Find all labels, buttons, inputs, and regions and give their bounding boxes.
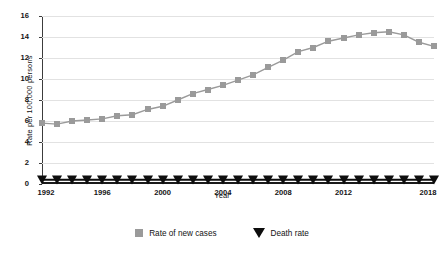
data-point-triangle: [354, 175, 364, 184]
data-point-triangle: [384, 175, 394, 184]
data-point-triangle: [127, 175, 137, 184]
data-point-square: [160, 103, 166, 109]
y-axis-tick-label: 12: [3, 54, 29, 62]
data-point-square: [69, 118, 75, 124]
y-axis-tick-label: 8: [3, 96, 29, 104]
data-point-triangle: [429, 175, 439, 184]
data-point-square: [114, 113, 120, 119]
data-point-triangle: [67, 175, 77, 184]
data-point-square: [386, 29, 392, 35]
data-point-triangle: [173, 175, 183, 184]
data-point-triangle: [263, 175, 273, 184]
data-point-square: [341, 35, 347, 41]
data-point-square: [145, 106, 151, 112]
data-point-square: [416, 39, 422, 45]
y-axis-tick-label: 6: [3, 117, 29, 125]
data-point-square: [205, 87, 211, 93]
data-point-triangle: [82, 175, 92, 184]
y-axis-tick-label: 4: [3, 138, 29, 146]
y-axis-tick-label: 14: [3, 33, 29, 41]
data-point-square: [250, 72, 256, 78]
data-point-triangle: [369, 175, 379, 184]
data-point-triangle: [143, 175, 153, 184]
data-point-square: [39, 120, 45, 126]
square-marker-icon: [135, 229, 143, 237]
data-point-triangle: [323, 175, 333, 184]
data-point-square: [220, 82, 226, 88]
data-point-square: [325, 38, 331, 44]
data-point-triangle: [233, 175, 243, 184]
y-axis-tick-label: 16: [3, 12, 29, 20]
data-point-triangle: [97, 175, 107, 184]
data-point-triangle: [308, 175, 318, 184]
triangle-marker-icon: [253, 228, 265, 238]
y-axis-tick-label: 10: [3, 75, 29, 83]
y-axis-tick-label: 2: [3, 159, 29, 167]
data-point-triangle: [248, 175, 258, 184]
data-point-triangle: [414, 175, 424, 184]
data-point-square: [175, 97, 181, 103]
legend-item-rate-of-new-cases: Rate of new cases: [135, 229, 216, 238]
data-point-square: [84, 117, 90, 123]
data-point-square: [99, 116, 105, 122]
data-point-square: [235, 77, 241, 83]
chart-legend: Rate of new cases Death rate: [0, 228, 444, 238]
x-axis-title: Year: [0, 191, 444, 200]
data-point-square: [265, 64, 271, 70]
data-point-triangle: [278, 175, 288, 184]
data-point-triangle: [158, 175, 168, 184]
data-point-triangle: [293, 175, 303, 184]
data-point-triangle: [399, 175, 409, 184]
data-point-square: [401, 32, 407, 38]
data-point-square: [295, 49, 301, 55]
series-lines: [42, 16, 434, 184]
data-point-square: [371, 30, 377, 36]
data-point-triangle: [52, 175, 62, 184]
data-point-square: [356, 32, 362, 38]
data-point-triangle: [112, 175, 122, 184]
legend-label: Death rate: [271, 229, 309, 238]
data-point-triangle: [339, 175, 349, 184]
data-point-triangle: [37, 175, 47, 184]
data-point-square: [190, 91, 196, 97]
data-point-triangle: [203, 175, 213, 184]
data-point-square: [310, 45, 316, 51]
data-point-square: [54, 121, 60, 127]
data-point-square: [280, 57, 286, 63]
y-axis-tick-label: 0: [3, 180, 29, 188]
data-point-square: [129, 112, 135, 118]
legend-label: Rate of new cases: [149, 229, 216, 238]
data-point-triangle: [218, 175, 228, 184]
chart-figure: Rate per 100,000 persons 0246810121416 1…: [0, 0, 444, 258]
plot-area: 0246810121416 19921996200020042008201220…: [42, 16, 434, 184]
data-point-square: [431, 43, 437, 49]
data-point-triangle: [188, 175, 198, 184]
legend-item-death-rate: Death rate: [253, 228, 309, 238]
